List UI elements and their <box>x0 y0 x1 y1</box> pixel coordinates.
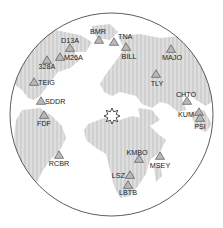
station-label: TEIG <box>38 78 55 87</box>
station-label: M26A <box>64 53 83 62</box>
station-label: FDF <box>37 119 52 128</box>
station-label: KUM <box>178 110 194 119</box>
station-label: TNA <box>118 32 133 41</box>
station-label: D13A <box>61 36 79 45</box>
epicenter-star-icon <box>104 108 120 124</box>
station-label: LBTB <box>119 188 137 197</box>
station-label: BMR <box>90 27 106 36</box>
station-label: KMBO <box>126 148 148 157</box>
station-label: BILL <box>122 52 137 61</box>
station-map: BMRTNAD13ABILLM26A328AMAJOTLYTEIGSDDRFDF… <box>0 0 223 228</box>
station-label: PSI <box>194 122 206 131</box>
station-label: MSEY <box>150 161 171 170</box>
epicenter-star-shape <box>104 108 120 124</box>
station-label: SDDR <box>45 97 65 106</box>
station-label: LSZ <box>112 171 126 180</box>
station-label: RCBR <box>49 159 69 168</box>
station-label: MAJO <box>162 53 182 62</box>
station-teig: TEIG <box>29 78 55 87</box>
station-label: CHTO <box>176 90 197 99</box>
station-sddr: SDDR <box>36 97 65 106</box>
station-label: 328A <box>39 62 56 71</box>
station-lsz: LSZ <box>112 171 135 180</box>
station-label: TLY <box>151 79 164 88</box>
station-m26a: M26A <box>55 53 83 62</box>
